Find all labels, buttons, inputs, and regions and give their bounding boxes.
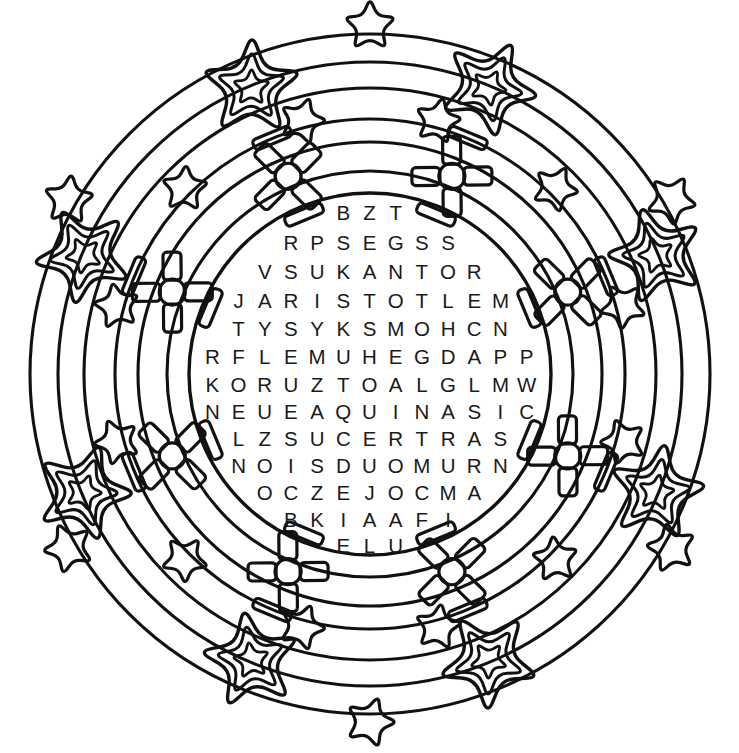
mandala-artwork: [0, 0, 739, 753]
page-background: [0, 0, 739, 753]
mandala-page: BZTRPSEGSSVSUKANTORJARISTOTLEMTYSYKSMOHC…: [0, 0, 739, 753]
